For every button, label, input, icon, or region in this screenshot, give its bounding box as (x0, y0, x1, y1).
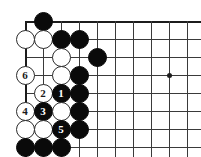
stone-move-number: 1 (58, 87, 64, 98)
grid-line-vertical (97, 21, 98, 157)
stone-black (52, 30, 71, 49)
stone-white-move-2: 2 (34, 84, 53, 103)
stone-white-move-4: 4 (16, 102, 35, 121)
stone-white (52, 48, 71, 67)
stone-black-move-3: 3 (34, 102, 53, 121)
star-point (167, 73, 172, 78)
stone-black (52, 138, 71, 157)
stone-white (16, 30, 35, 49)
grid-line-vertical (187, 21, 188, 157)
stone-black-move-1: 1 (52, 84, 71, 103)
stone-black (70, 30, 89, 49)
stone-move-number: 5 (58, 123, 64, 134)
stone-move-number: 4 (22, 105, 28, 116)
stone-black (34, 12, 53, 31)
stone-white (52, 66, 71, 85)
stone-white (52, 102, 71, 121)
grid-line-vertical (169, 21, 170, 157)
stone-black (70, 102, 89, 121)
stone-black (70, 84, 89, 103)
stone-black-move-5: 5 (52, 120, 71, 139)
stone-white (16, 120, 35, 139)
grid-line-vertical (115, 21, 116, 157)
stone-move-number: 3 (40, 105, 46, 116)
stone-white (34, 30, 53, 49)
go-diagram: 621435 (0, 0, 201, 157)
stone-black (70, 66, 89, 85)
stone-white (34, 120, 53, 139)
stone-black (88, 48, 107, 67)
stone-black (34, 138, 53, 157)
stone-move-number: 2 (40, 87, 46, 98)
grid-line-vertical (133, 21, 134, 157)
stone-move-number: 6 (22, 69, 28, 80)
stone-black (70, 120, 89, 139)
stone-white-move-6: 6 (16, 66, 35, 85)
stone-black (16, 138, 35, 157)
grid-line-vertical (151, 21, 152, 157)
